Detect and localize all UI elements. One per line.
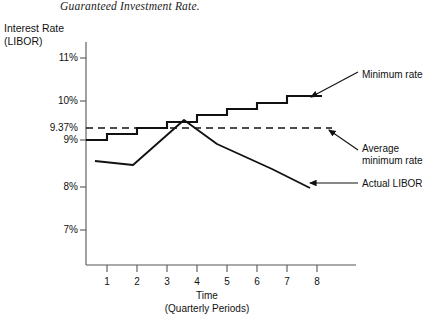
leader-line-minimum-rate xyxy=(311,72,358,97)
chart-svg xyxy=(0,0,434,316)
leader-line-average-minimum-rate xyxy=(329,130,358,150)
y-axis-ticks xyxy=(80,58,86,230)
x-axis-ticks xyxy=(107,265,317,272)
figure-container: Guaranteed Investment Rate. Interest Rat… xyxy=(0,0,434,316)
series-actual-libor xyxy=(95,120,310,188)
